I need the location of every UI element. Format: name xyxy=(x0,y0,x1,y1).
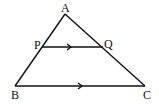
label-a: A xyxy=(61,1,70,15)
label-b: B xyxy=(11,88,19,102)
triangle-diagram: A B C P Q xyxy=(0,0,159,104)
label-c: C xyxy=(143,88,151,102)
label-p: P xyxy=(34,38,41,52)
label-q: Q xyxy=(104,37,113,51)
